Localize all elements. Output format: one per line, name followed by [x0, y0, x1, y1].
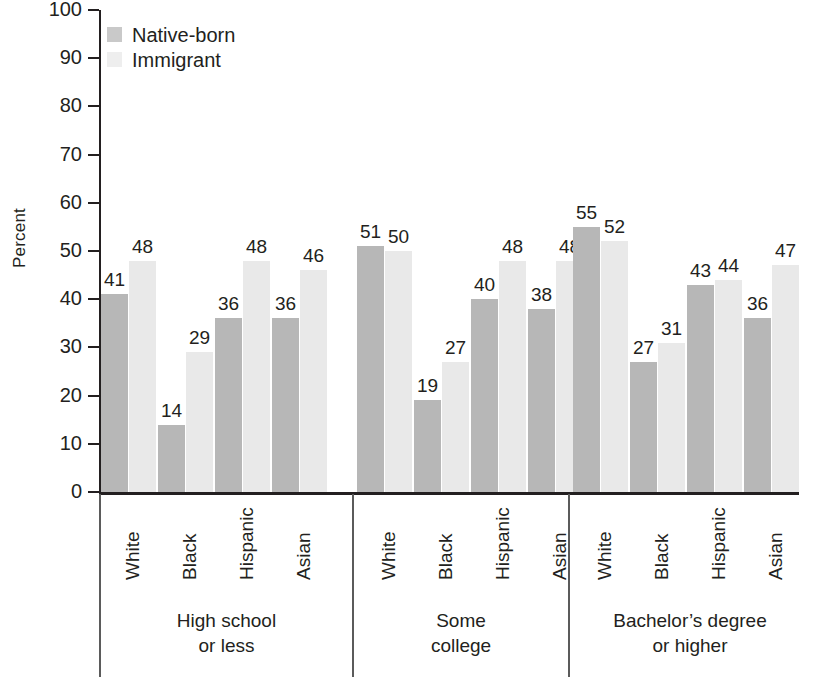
x-axis-label-asian: Asian [549, 532, 571, 580]
bar-hispanic-native [215, 318, 242, 492]
group-label: High schoolor less [101, 608, 352, 658]
x-axis-label-hispanic: Hispanic [492, 507, 514, 580]
bar-value-label: 52 [590, 217, 640, 236]
x-axis-label-black: Black [651, 534, 673, 580]
bar-asian-native [528, 309, 555, 492]
bar-white-immigrant [385, 251, 412, 492]
bar-white-immigrant [129, 261, 156, 492]
group-label: Bachelor’s degreeor higher [570, 608, 810, 658]
bar-chart: Percent 0102030405060708090100 Native-bo… [0, 0, 827, 677]
bar-value-label: 48 [118, 237, 168, 256]
bar-black-native [158, 425, 185, 492]
bar-value-label: 48 [232, 237, 282, 256]
bar-asian-native [272, 318, 299, 492]
bar-black-immigrant [658, 343, 685, 492]
bar-white-native [357, 246, 384, 492]
x-axis-label-hispanic: Hispanic [236, 507, 258, 580]
x-axis-label-white: White [594, 531, 616, 580]
x-axis-label-asian: Asian [293, 532, 315, 580]
group-label-line2: or higher [570, 633, 810, 658]
x-axis-line [99, 492, 799, 495]
bar-asian-immigrant [300, 270, 327, 492]
group-label-line2: college [354, 633, 568, 658]
bar-black-native [414, 400, 441, 492]
bar-white-native [573, 227, 600, 492]
bar-hispanic-native [687, 285, 714, 492]
bar-black-immigrant [186, 352, 213, 492]
group-label-line1: Some [354, 608, 568, 633]
x-axis-label-white: White [378, 531, 400, 580]
x-axis-label-white: White [122, 531, 144, 580]
bar-hispanic-native [471, 299, 498, 492]
group-label-line1: Bachelor’s degree [570, 608, 810, 633]
bar-black-native [630, 362, 657, 492]
group-label-line1: High school [101, 608, 352, 633]
bar-asian-immigrant [772, 265, 799, 492]
x-axis-label-hispanic: Hispanic [708, 507, 730, 580]
bar-value-label: 50 [374, 227, 424, 246]
bar-value-label: 44 [704, 256, 754, 275]
bar-asian-native [744, 318, 771, 492]
bar-value-label: 48 [488, 237, 538, 256]
bar-value-label: 47 [761, 241, 811, 260]
group-label-line2: or less [101, 633, 352, 658]
group-label: Somecollege [354, 608, 568, 658]
x-axis-label-asian: Asian [765, 532, 787, 580]
x-axis-label-black: Black [179, 534, 201, 580]
bar-white-immigrant [601, 241, 628, 492]
bar-white-native [101, 294, 128, 492]
x-axis-label-black: Black [435, 534, 457, 580]
bar-black-immigrant [442, 362, 469, 492]
plot-area: 4148142936483646515019274048384855522731… [0, 0, 827, 492]
bar-value-label: 46 [289, 246, 339, 265]
